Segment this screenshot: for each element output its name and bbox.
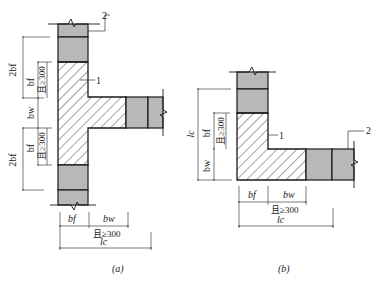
dim-note-lower: 且≥300 <box>37 132 47 160</box>
dim-label-bf: bf <box>201 128 212 137</box>
dim-label-bottom-lc: lc <box>100 236 108 247</box>
callout-label-1: 1 <box>96 75 101 86</box>
hatched-constraint-zone-a <box>58 62 126 165</box>
dim-label-bottom-bf: bf <box>68 213 77 224</box>
figure-b: 1 2 lc bf 且≥300 bw bf bw 且≥300 lc (b) <box>185 67 371 275</box>
figure-caption-a: (a) <box>112 263 124 275</box>
masonry-block-right-a1 <box>126 97 148 128</box>
dim-label-lower-2bf: 2bf <box>7 153 18 167</box>
masonry-block-right-a2 <box>148 97 163 128</box>
figure-a: 2 1 2bf bf 且≥300 bw bf 且≥300 2bf <box>7 10 167 275</box>
dim-label-bottom-bw: bw <box>283 189 295 200</box>
masonry-block-top-b1 <box>237 72 268 89</box>
masonry-block-top-b2 <box>237 89 268 113</box>
callout-label-2: 2 <box>366 125 371 136</box>
callout-label-1: 1 <box>279 130 284 141</box>
dim-label-upper-2bf: 2bf <box>7 63 18 77</box>
masonry-block-bottom-a2 <box>58 190 88 205</box>
masonry-block-top-a1 <box>58 24 88 37</box>
masonry-block-right-b1 <box>306 149 332 180</box>
callout-leader-2 <box>348 131 364 149</box>
masonry-block-right-b2 <box>332 149 354 180</box>
dim-label-bw: bw <box>25 106 36 119</box>
dim-note-upper: 且≥300 <box>216 117 226 145</box>
masonry-block-top-a2 <box>58 37 88 62</box>
dim-label-bottom-bf: bf <box>248 189 257 200</box>
hatched-constraint-zone-b <box>237 113 306 180</box>
masonry-block-bottom-a1 <box>58 165 88 190</box>
break-mark-icon <box>48 19 100 27</box>
dim-label-bw: bw <box>201 159 212 172</box>
dim-note-bottom: 且≥300 <box>271 205 299 215</box>
dim-label-lower-bf: bf <box>25 143 36 152</box>
dim-label-bottom-bw: bw <box>103 213 115 224</box>
dim-note-upper: 且≥300 <box>37 66 47 94</box>
callout-label-2: 2 <box>102 10 107 21</box>
dim-label-bottom-lc: lc <box>277 214 285 225</box>
figure-caption-b: (b) <box>278 263 290 275</box>
dim-label-upper-bf: bf <box>25 77 36 86</box>
dim-label-lc: lc <box>185 130 196 138</box>
constraint-edge-diagram: 2 1 2bf bf 且≥300 bw bf 且≥300 2bf <box>0 0 382 290</box>
